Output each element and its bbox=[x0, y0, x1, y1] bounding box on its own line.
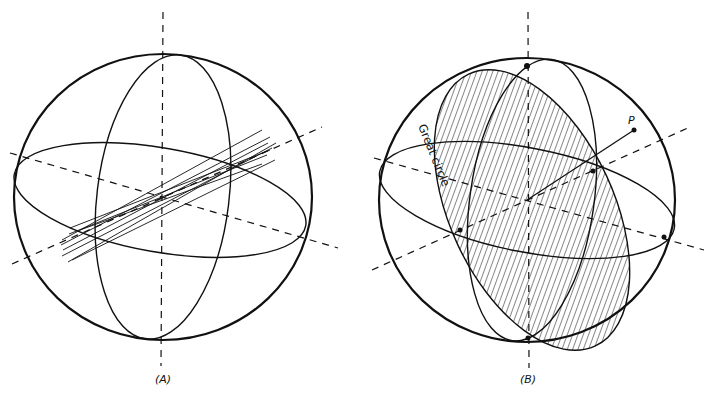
equator-great-circle bbox=[5, 123, 315, 277]
intersection-dot-left bbox=[458, 228, 463, 233]
point-p-marker bbox=[632, 128, 637, 133]
intersection-dot-right bbox=[662, 235, 667, 240]
figure-canvas: (A) P Great circle (B) bbox=[0, 0, 708, 396]
intersection-dot-bottom bbox=[526, 336, 531, 341]
intersection-dot-mid bbox=[591, 169, 596, 174]
panel-b-caption: (B) bbox=[520, 373, 536, 386]
hatched-great-circle-plane bbox=[394, 39, 669, 380]
panel-b: P Great circle (B) bbox=[370, 12, 704, 386]
ray-bundle bbox=[61, 130, 276, 262]
horizontal-axis bbox=[10, 153, 338, 248]
panel-a: (A) bbox=[5, 12, 338, 386]
point-p-label: P bbox=[628, 114, 635, 127]
panel-a-caption: (A) bbox=[155, 373, 171, 386]
vertical-axis bbox=[161, 12, 163, 366]
intersection-dot-top bbox=[524, 63, 530, 69]
